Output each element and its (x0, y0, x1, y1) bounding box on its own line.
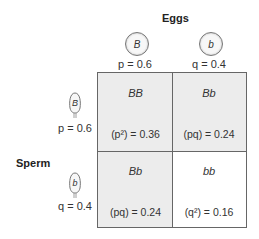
egg-cell-icon-B: B (125, 32, 149, 56)
egg-frequency-q: q = 0.4 (192, 58, 226, 70)
sperm-cell-icon-B: B (68, 92, 86, 120)
sperm-frequency-q: q = 0.4 (58, 200, 92, 212)
egg-allele-label: b (208, 39, 214, 50)
genotype-label: bb (172, 165, 246, 177)
genotype-frequency: (pq) = 0.24 (172, 128, 246, 140)
egg-allele-label: B (134, 39, 141, 50)
genotype-label: BB (98, 87, 173, 99)
eggs-title: Eggs (162, 12, 189, 24)
grid-vertical-divider (172, 73, 173, 227)
cell-BB: BB (p²) = 0.36 (98, 73, 173, 151)
sperm-frequency-p: p = 0.6 (58, 122, 92, 134)
genotype-label: Bb (98, 165, 173, 177)
cell-Bb-bottom: Bb (pq) = 0.24 (98, 151, 173, 227)
egg-cell-icon-b: b (199, 32, 223, 56)
punnett-square: BB (p²) = 0.36 Bb (pq) = 0.24 Bb (pq) = … (97, 72, 247, 228)
genotype-frequency: (pq) = 0.24 (98, 206, 173, 218)
sperm-cell-icon-b: b (68, 172, 86, 200)
genotype-frequency: (p²) = 0.36 (98, 128, 173, 140)
grid-horizontal-divider (98, 151, 246, 152)
sperm-title: Sperm (16, 157, 50, 169)
sperm-allele-label: B (68, 98, 82, 108)
cell-bb: bb (q²) = 0.16 (172, 151, 246, 227)
sperm-allele-label: b (68, 178, 82, 188)
genotype-label: Bb (172, 87, 246, 99)
cell-Bb-top: Bb (pq) = 0.24 (172, 73, 246, 151)
genotype-frequency: (q²) = 0.16 (172, 206, 246, 218)
egg-frequency-p: p = 0.6 (118, 58, 152, 70)
